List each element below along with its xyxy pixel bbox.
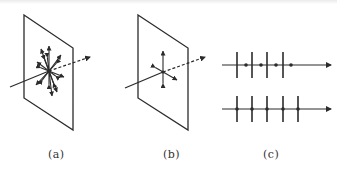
- panel-b-two-components: [125, 15, 205, 130]
- parallel-dot-icon: [289, 63, 293, 67]
- center-dot: [161, 70, 164, 73]
- parallel-dot-icon: [250, 107, 254, 111]
- caption-c: (c): [263, 148, 279, 161]
- panel-a-unpolarized: [10, 15, 90, 130]
- caption-a: (a): [48, 148, 65, 161]
- parallel-dot-icon: [235, 107, 239, 111]
- parallel-dot-icon: [296, 107, 300, 111]
- parallel-dot-icon: [274, 63, 278, 67]
- parallel-dot-icon: [244, 63, 248, 67]
- caption-b: (b): [163, 148, 180, 161]
- center-dot: [47, 69, 50, 72]
- transmitted-ray-dashed-arrow: [163, 57, 205, 72]
- parallel-dot-icon: [281, 107, 285, 111]
- parallel-dot-icon: [259, 63, 263, 67]
- parallel-dot-icon: [265, 107, 269, 111]
- panel-c-notation: [222, 52, 331, 122]
- incident-ray: [125, 72, 163, 88]
